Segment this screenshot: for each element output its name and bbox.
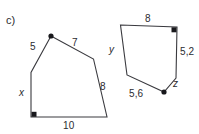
left-pentagon-outline <box>31 36 107 117</box>
right-pentagon-group <box>121 25 178 95</box>
geometry-exercise-figure: c) 5 7 8 x 10 8 5,2 z 5,6 y <box>0 0 199 134</box>
left-pentagon-apex-vertex-dot <box>48 33 53 38</box>
left-side-label-x: x <box>19 87 24 98</box>
left-side-label-5: 5 <box>30 41 36 52</box>
right-pentagon-right-angle-marker <box>172 27 177 32</box>
left-pentagon-group <box>31 33 107 117</box>
right-side-label-8: 8 <box>145 13 151 24</box>
left-pentagon-right-angle-marker <box>32 112 37 117</box>
right-pentagon-bottom-vertex-dot <box>161 89 166 94</box>
left-side-label-7: 7 <box>72 37 78 48</box>
right-side-label-5-6: 5,6 <box>129 88 143 99</box>
right-side-label-z: z <box>173 78 178 89</box>
right-side-label-y: y <box>109 44 114 55</box>
left-side-label-8: 8 <box>100 81 106 92</box>
figures-canvas <box>0 0 199 134</box>
right-pentagon-outline <box>121 25 178 92</box>
right-side-label-5-2: 5,2 <box>180 46 194 57</box>
left-side-label-10: 10 <box>63 120 74 131</box>
